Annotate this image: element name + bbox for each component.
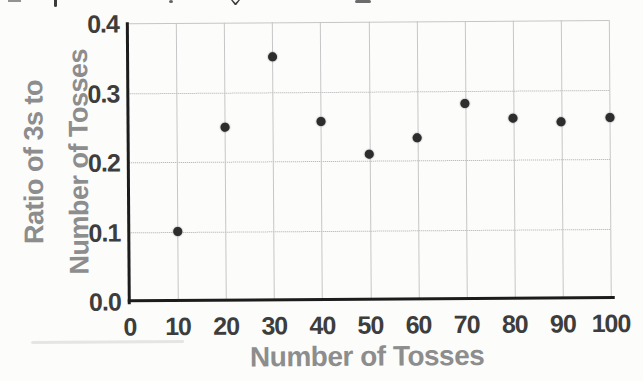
plot-area bbox=[128, 20, 611, 301]
y-tick-label: 0.1 bbox=[58, 218, 120, 246]
data-point bbox=[220, 122, 229, 131]
scanned-figure-page: Ratio of 3s to Number of Tosses 0.00.10.… bbox=[0, 0, 643, 381]
data-point bbox=[509, 113, 518, 122]
y-axis-line bbox=[126, 22, 131, 304]
data-point bbox=[557, 117, 566, 126]
x-axis-line bbox=[128, 296, 615, 302]
y-tick-label: 0.2 bbox=[58, 148, 120, 176]
data-point bbox=[461, 99, 470, 108]
data-point bbox=[316, 117, 325, 126]
data-point bbox=[413, 133, 422, 142]
data-point bbox=[173, 227, 182, 236]
data-point bbox=[365, 149, 374, 158]
data-point bbox=[268, 53, 277, 62]
scatter-chart: Ratio of 3s to Number of Tosses 0.00.10.… bbox=[0, 0, 643, 381]
gridline-vertical bbox=[609, 20, 612, 298]
y-tick-label: 0.4 bbox=[57, 9, 119, 37]
x-axis-title: Number of Tosses bbox=[217, 343, 517, 371]
scan-artifact bbox=[31, 340, 184, 344]
data-point bbox=[605, 113, 614, 122]
y-tick-label: 0.3 bbox=[57, 79, 119, 107]
x-tick-label: 100 bbox=[581, 309, 641, 337]
